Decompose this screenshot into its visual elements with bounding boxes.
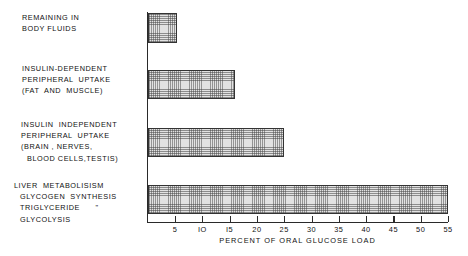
label-line: LIVER METABOLISISM — [14, 180, 117, 191]
bar-insulin-independent-peripheral-uptake — [148, 128, 285, 158]
bar-remaining-in-body-fluids — [148, 13, 177, 43]
label-line: INSULIN INDEPENDENT — [21, 119, 118, 130]
x-axis-tick-label: 20 — [252, 225, 261, 234]
x-axis-tick-label: 25 — [280, 225, 289, 234]
category-label-insulin-independent-peripheral-uptake: INSULIN INDEPENDENTPERIPHERAL UPTAKE(BRA… — [21, 119, 118, 164]
x-axis-tick — [393, 216, 394, 222]
label-line: BODY FLUIDS — [22, 23, 79, 34]
category-label-liver-metabolisism: LIVER METABOLISISMGLYCOGEN SYNTHESISTRIG… — [14, 180, 117, 225]
x-axis-tick — [448, 216, 449, 222]
category-label-insulin-dependent-peripheral-uptake: INSULIN-DEPENDENTPERIPHERAL UPTAKE(FAT A… — [22, 63, 111, 97]
x-axis-line — [147, 222, 448, 223]
bar-liver-metabolisism — [148, 185, 448, 214]
x-axis-tick-label: 45 — [389, 225, 398, 234]
x-axis-title: PERCENT OF ORAL GLUCOSE LOAD — [147, 236, 448, 245]
x-axis-tick — [257, 216, 258, 222]
category-label-remaining-in-body-fluids: REMAINING INBODY FLUIDS — [22, 12, 79, 34]
label-line: BLOOD CELLS,TESTIS) — [21, 153, 118, 164]
x-axis-tick-label: 5 — [173, 225, 178, 234]
label-line: (BRAIN , NERVES, — [21, 141, 118, 152]
label-line: INSULIN-DEPENDENT — [22, 63, 111, 74]
x-axis-tick — [366, 216, 367, 222]
x-axis-tick-label: 30 — [307, 225, 316, 234]
x-axis-tick — [202, 216, 203, 222]
x-axis-tick — [284, 216, 285, 222]
horizontal-bar-chart: REMAINING INBODY FLUIDS INSULIN-DEPENDEN… — [0, 0, 468, 256]
x-axis-tick-label: I5 — [226, 225, 233, 234]
label-line: PERIPHERAL UPTAKE — [21, 130, 118, 141]
label-line: GLYCOLYSIS — [14, 214, 117, 225]
label-line: GLYCOGEN SYNTHESIS — [14, 191, 117, 202]
x-axis-tick — [175, 216, 176, 222]
x-axis-tick — [312, 216, 313, 222]
x-axis-tick-label: 50 — [416, 225, 425, 234]
label-line: PERIPHERAL UPTAKE — [22, 74, 111, 85]
label-line: TRIGLYCERIDE " — [14, 202, 117, 213]
x-axis-tick — [421, 216, 422, 222]
x-axis-tick — [339, 216, 340, 222]
x-axis-tick-label: IO — [198, 225, 207, 234]
label-line: (FAT AND MUSCLE) — [22, 85, 111, 96]
x-axis-tick-label: 40 — [361, 225, 370, 234]
x-axis-tick — [230, 216, 231, 222]
label-line: REMAINING IN — [22, 12, 79, 23]
x-axis-tick-label: 35 — [334, 225, 343, 234]
x-axis-tick-label: 55 — [443, 225, 452, 234]
bar-insulin-dependent-peripheral-uptake — [148, 70, 235, 99]
